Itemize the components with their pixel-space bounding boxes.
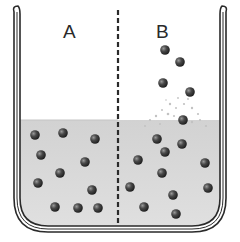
particle-a-liquid — [58, 128, 68, 138]
particle-b-liquid — [152, 134, 162, 144]
particle-b-liquid — [177, 139, 187, 149]
particle-b-liquid — [200, 158, 210, 168]
particle-b-liquid — [160, 147, 170, 157]
label-b: B — [156, 22, 169, 41]
particle-a-liquid — [36, 150, 46, 160]
particle-b-liquid — [139, 202, 149, 212]
particle-b-vapor — [178, 115, 188, 125]
particle-b-liquid — [133, 155, 143, 165]
particle-b-liquid — [168, 190, 178, 200]
particle-a-liquid — [30, 130, 40, 140]
particle-a-liquid — [93, 203, 103, 213]
particle-b-vapor — [158, 78, 168, 88]
particle-b-liquid — [125, 182, 135, 192]
particle-a-liquid — [87, 185, 97, 195]
particle-a-liquid — [73, 203, 83, 213]
particle-b-vapor — [185, 87, 195, 97]
particle-b-vapor — [160, 45, 170, 55]
liquid — [18, 120, 224, 230]
label-a: A — [63, 22, 76, 41]
particle-a-liquid — [50, 202, 60, 212]
particle-b-liquid — [157, 168, 167, 178]
beaker-diagram — [0, 0, 240, 242]
particle-b-liquid — [171, 209, 181, 219]
particle-a-liquid — [90, 134, 100, 144]
particle-a-liquid — [55, 168, 65, 178]
particle-a-liquid — [33, 178, 43, 188]
particle-b-liquid — [203, 183, 213, 193]
particle-a-liquid — [80, 157, 90, 167]
particle-b-vapor — [175, 57, 185, 67]
